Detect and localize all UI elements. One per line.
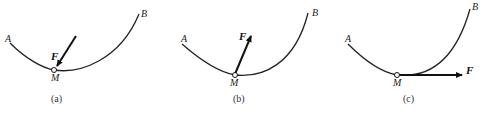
label-m: M	[392, 77, 402, 88]
caption-a: (a)	[51, 93, 62, 105]
force-arrow	[57, 36, 76, 66]
trajectory-curve	[182, 13, 308, 75]
force-label: F	[50, 50, 59, 62]
trajectory-curve	[348, 9, 470, 75]
label-m: M	[229, 77, 239, 88]
panel-a: A B F M (a)	[4, 8, 147, 105]
label-m: M	[50, 72, 60, 83]
trajectory-diagrams: A B F M (a) A B F M (b) A B F M (c)	[0, 0, 481, 117]
caption-c: (c)	[403, 93, 414, 105]
label-a: A	[180, 33, 188, 44]
caption-b: (b)	[233, 93, 245, 105]
panel-b: A B F M (b)	[180, 7, 318, 105]
label-a: A	[4, 33, 12, 44]
label-b: B	[141, 8, 147, 19]
label-a: A	[344, 33, 352, 44]
panel-c: A B F M (c)	[344, 1, 478, 105]
force-label: F	[238, 30, 247, 42]
force-label: F	[465, 64, 474, 76]
label-b: B	[312, 7, 318, 18]
trajectory-curve	[10, 14, 139, 71]
label-b: B	[472, 1, 478, 12]
